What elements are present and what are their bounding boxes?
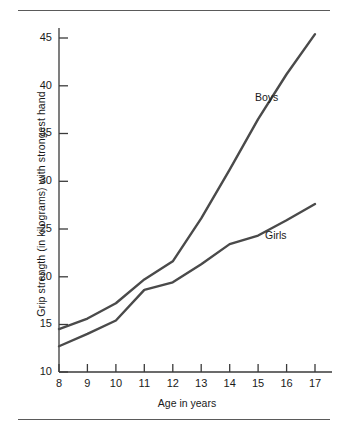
y-tick-label-10: 10: [26, 365, 52, 377]
x-tick-label-9: 9: [77, 377, 97, 389]
x-tick-label-17: 17: [305, 377, 325, 389]
x-tick-label-14: 14: [220, 377, 240, 389]
series-line-boys: [59, 34, 315, 329]
x-tick-label-13: 13: [191, 377, 211, 389]
y-axis-ticks: [59, 38, 68, 372]
series-line-girls: [59, 204, 315, 346]
x-tick-label-15: 15: [248, 377, 268, 389]
x-tick-label-10: 10: [106, 377, 126, 389]
y-tick-label-45: 45: [26, 31, 52, 43]
x-axis-ticks: [59, 364, 315, 372]
series-annotation-boys: Boys: [255, 91, 278, 103]
x-axis-title: Age in years: [59, 397, 315, 409]
x-tick-label-12: 12: [163, 377, 183, 389]
x-tick-label-11: 11: [134, 377, 154, 389]
y-axis-title: Grip strength (in kilograms) with strong…: [35, 54, 47, 354]
x-tick-label-8: 8: [49, 377, 69, 389]
x-tick-label-16: 16: [277, 377, 297, 389]
chart-figure: 45 40 35 30 25 20 15 10 8 9 10 11 12 13 …: [0, 0, 345, 434]
series-annotation-girls: Girls: [265, 229, 287, 241]
